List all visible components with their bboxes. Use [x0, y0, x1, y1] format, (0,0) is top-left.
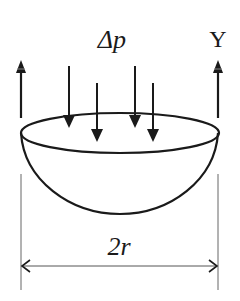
pressure-arrow-1-icon [63, 66, 75, 128]
tension-arrow-right-icon [213, 60, 223, 118]
tension-label: Y [209, 26, 226, 52]
pressure-arrow-3-icon [129, 66, 141, 128]
pressure-arrow-4-icon [147, 83, 159, 142]
tension-arrow-left-icon [16, 60, 26, 118]
pressure-label: Δp [97, 25, 126, 54]
diameter-dimension-arrow-icon [22, 260, 217, 272]
diameter-label: 2r [107, 232, 131, 261]
hemisphere-pressure-diagram: Δp Y [0, 0, 240, 301]
hemisphere-bowl [21, 113, 219, 214]
